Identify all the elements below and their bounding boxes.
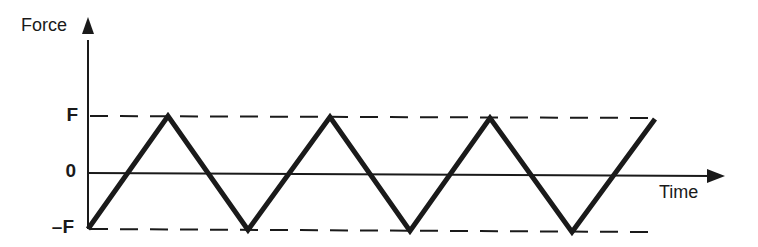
x-axis (88, 173, 712, 176)
tick-label-negative-F: –F (34, 216, 74, 238)
upper-limit-line (90, 116, 655, 118)
y-axis-arrow-icon (82, 17, 94, 34)
force-time-chart (0, 0, 758, 247)
tick-label-zero: 0 (36, 160, 76, 182)
y-axis-label: Force (21, 15, 67, 36)
tick-label-F: F (38, 104, 78, 126)
x-axis-arrow-icon (707, 169, 725, 183)
x-axis-label: Time (659, 182, 698, 203)
